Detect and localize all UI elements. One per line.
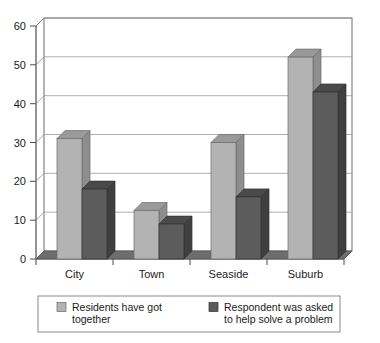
bar-town-respondent-was-asked [159, 216, 192, 259]
bar-front-face [159, 224, 184, 259]
ytick-label-40: 40 [14, 98, 26, 110]
bar-seaside-respondent-was-asked [236, 189, 269, 259]
bar-side-face [184, 216, 192, 259]
chart-canvas: 60 50 40 30 20 10 0 [0, 0, 380, 343]
bar-suburb-respondent-was-asked [313, 84, 346, 259]
bar-front-face [57, 139, 82, 259]
ytick-label-10: 10 [14, 214, 26, 226]
category-label-town: Town [139, 268, 165, 280]
legend-swatch-dark [209, 303, 218, 312]
bar-city-respondent-was-asked [82, 181, 115, 259]
legend-item-respondent-was-asked[interactable]: Respondent was asked to help solve a pro… [209, 301, 333, 325]
bar-front-face [313, 92, 338, 259]
chart-legend: Residents have got together Respondent w… [38, 296, 340, 332]
bar-side-face [261, 189, 269, 259]
legend-label-line1: Residents have got [72, 301, 162, 313]
bar-front-face [82, 189, 107, 259]
legend-label-line2: to help solve a problem [224, 313, 333, 325]
legend-swatch-light [57, 303, 66, 312]
ytick-label-0: 0 [20, 253, 26, 265]
legend-label-line2: together [72, 313, 111, 325]
legend-label-line1: Respondent was asked [224, 301, 333, 313]
ytick-label-60: 60 [14, 20, 26, 32]
category-label-city: City [65, 268, 84, 280]
bar-front-face [134, 211, 159, 260]
bar-side-face [107, 181, 115, 259]
ytick-label-30: 30 [14, 137, 26, 149]
ytick-label-20: 20 [14, 175, 26, 187]
category-label-seaside: Seaside [209, 268, 249, 280]
bar-front-face [288, 57, 313, 259]
bar-side-face [338, 84, 346, 259]
bar-front-face [211, 143, 236, 260]
bar-front-face [236, 197, 261, 259]
ytick-label-50: 50 [14, 59, 26, 71]
category-label-suburb: Suburb [288, 268, 323, 280]
bar-chart: 60 50 40 30 20 10 0 [0, 0, 380, 343]
